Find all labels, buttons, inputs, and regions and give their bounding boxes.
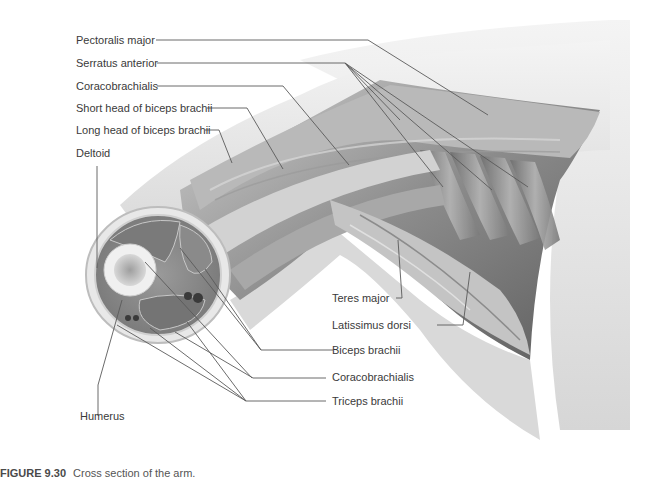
figure-number: FIGURE 9.30 [0, 467, 66, 479]
label-teres-major: Teres major [332, 292, 389, 305]
label-biceps-brachii: Biceps brachii [332, 344, 400, 357]
label-pectoralis-major: Pectoralis major [76, 34, 155, 47]
label-triceps-brachii: Triceps brachii [332, 395, 403, 408]
label-coracobrachialis-top: Coracobrachialis [76, 80, 158, 93]
figure-caption-text: Cross section of the arm. [73, 467, 195, 479]
label-long-head-biceps: Long head of biceps brachii [76, 124, 211, 137]
label-serratus-anterior: Serratus anterior [76, 57, 158, 70]
label-short-head-biceps: Short head of biceps brachii [76, 102, 212, 115]
bone-marrow [114, 254, 146, 286]
arm-illustration [0, 0, 653, 503]
label-deltoid: Deltoid [76, 147, 110, 160]
label-latissimus-dorsi: Latissimus dorsi [332, 319, 411, 332]
label-humerus: Humerus [80, 410, 125, 423]
figure-caption: FIGURE 9.30 Cross section of the arm. [0, 467, 195, 479]
label-coracobrachialis-bottom: Coracobrachialis [332, 371, 414, 384]
